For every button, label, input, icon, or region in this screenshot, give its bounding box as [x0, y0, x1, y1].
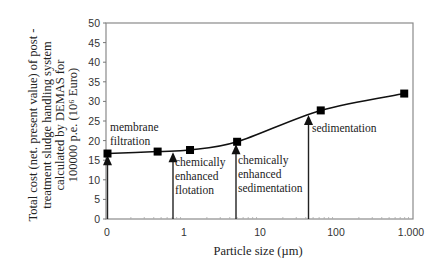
data-point-square-marker — [186, 146, 194, 154]
y-tick-label: 50 — [88, 17, 100, 29]
y-tick-label: 10 — [88, 174, 100, 186]
annotation-chemically-enhanced-flotation: chemicallyenhancedflotation — [169, 152, 226, 219]
annotation-chemically-enhanced-sedimentation: chemicallyenhancedsedimentation — [232, 144, 303, 219]
y-axis-title-line: 100000 p.e. (10⁶ Euro) — [66, 68, 80, 182]
x-axis-title: Particle size (µm) — [213, 244, 302, 258]
annotation-label: chemically — [175, 156, 226, 169]
annotation-membrane-filtration: membranefiltration — [103, 121, 159, 219]
data-point-square-marker — [104, 150, 112, 158]
y-axis-title-text: Total cost (net. present value) of post … — [26, 29, 80, 222]
data-point-square-marker — [317, 106, 325, 114]
data-point-square-marker — [233, 138, 241, 146]
data-point-square-marker — [154, 148, 162, 156]
cost-vs-particle-size-chart: 05101520253035404550 01101001.000 membra… — [0, 0, 446, 272]
annotation-label: filtration — [110, 135, 150, 147]
annotation-label: membrane — [110, 121, 159, 133]
y-tick-label: 0 — [94, 213, 100, 225]
annotation-label: sedimentation — [312, 122, 377, 134]
y-axis-title-line: Total cost (net. present value) of post … — [26, 29, 40, 222]
annotation-label: sedimentation — [238, 182, 303, 194]
y-tick-label: 25 — [88, 115, 100, 127]
annotation-label: chemically — [238, 154, 289, 167]
x-axis: 01101001.000 — [104, 217, 424, 238]
y-tick-label: 35 — [88, 76, 100, 88]
y-tick-label: 20 — [88, 135, 100, 147]
data-point-square-marker — [400, 90, 408, 98]
annotation-sedimentation: sedimentation — [304, 115, 377, 219]
y-axis: 05101520253035404550 — [88, 17, 106, 225]
x-tick-label: 0 — [104, 226, 110, 238]
y-tick-label: 30 — [88, 95, 100, 107]
process-annotations: membranefiltrationchemicallyenhancedflot… — [103, 115, 377, 219]
annotation-label: flotation — [175, 184, 214, 196]
y-tick-label: 45 — [88, 37, 100, 49]
arrow-up-icon — [232, 144, 241, 154]
y-tick-label: 5 — [94, 193, 100, 205]
annotation-label: enhanced — [238, 168, 282, 180]
x-tick-label: 1.000 — [398, 226, 424, 238]
x-tick-label: 1 — [181, 226, 187, 238]
x-tick-label: 10 — [254, 226, 266, 238]
y-axis-title-line: treatment sludge handling system — [40, 41, 54, 209]
y-tick-label: 15 — [88, 154, 100, 166]
y-axis-title-line: calculated by DEMAS for — [53, 59, 67, 191]
y-axis-title: Total cost (net. present value) of post … — [26, 29, 80, 222]
annotation-label: enhanced — [175, 170, 219, 182]
x-tick-label: 100 — [327, 226, 345, 238]
y-tick-label: 40 — [88, 56, 100, 68]
